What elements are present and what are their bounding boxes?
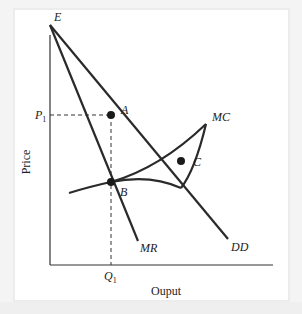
mr-curve	[50, 25, 138, 241]
label-mc: MC	[211, 110, 231, 124]
label-e: E	[53, 10, 62, 24]
mc-curve-upper	[111, 124, 206, 182]
label-mr: MR	[139, 241, 158, 255]
point-b	[107, 178, 115, 186]
label-b: B	[120, 185, 128, 199]
x-axis-label: Ouput	[151, 284, 182, 298]
mc-curve	[69, 124, 206, 193]
monopoly-diagram: E A B C MC MR DD P1 Q1 Ouput Price	[0, 0, 302, 314]
y-axis-label: Price	[19, 150, 33, 175]
label-p1: P1	[34, 108, 46, 124]
label-q1: Q1	[104, 269, 117, 285]
point-a	[107, 111, 115, 119]
point-c	[177, 157, 185, 165]
caption-strip	[0, 302, 302, 314]
label-dd: DD	[230, 240, 249, 254]
label-a: A	[120, 103, 129, 117]
label-c: C	[193, 155, 202, 169]
dd-curve	[50, 25, 228, 239]
